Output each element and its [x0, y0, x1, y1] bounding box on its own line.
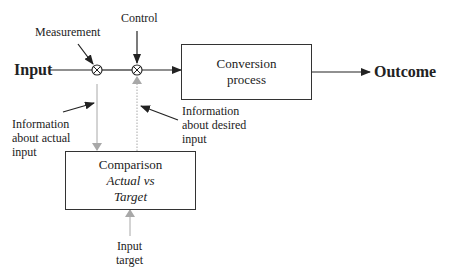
input-label: Input — [14, 61, 52, 79]
control-label: Control — [121, 11, 158, 25]
input-target-line-1: Input — [116, 239, 143, 253]
process-line-2: process — [227, 72, 266, 88]
info-desired-line-3: input — [182, 132, 246, 146]
comparison-title: Comparison — [99, 157, 163, 173]
info-actual-line-2: about actual — [12, 131, 70, 145]
conversion-process-box: Conversion process — [181, 44, 312, 100]
info-actual-line-3: input — [12, 145, 70, 159]
info-desired-label: Information about desired input — [182, 104, 246, 146]
control-junction-icon — [132, 65, 142, 75]
info-actual-line-1: Information — [12, 117, 70, 131]
input-target-line-2: target — [116, 253, 143, 267]
measurement-arrow — [78, 44, 93, 64]
measurement-label: Measurement — [35, 25, 100, 39]
input-target-label: Input target — [116, 239, 143, 267]
info-actual-arrow — [63, 103, 94, 112]
process-line-1: Conversion — [217, 56, 277, 72]
info-desired-line-1: Information — [182, 104, 246, 118]
info-desired-line-2: about desired — [182, 118, 246, 132]
comparison-box: Comparison Actual vs Target — [65, 151, 196, 210]
info-actual-label: Information about actual input — [12, 117, 70, 159]
measurement-junction-icon — [92, 65, 102, 75]
outcome-label: Outcome — [374, 63, 436, 81]
info-desired-arrow — [141, 106, 178, 120]
comparison-line-2: Actual vs — [106, 173, 154, 189]
comparison-line-3: Target — [114, 189, 147, 205]
